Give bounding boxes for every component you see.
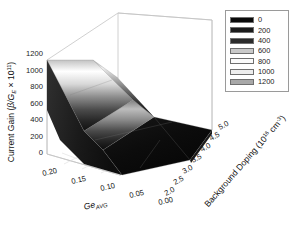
svg-text:Background Doping (1016 cm-3): Background Doping (1016 cm-3) bbox=[202, 113, 287, 209]
legend-swatch-icon bbox=[230, 69, 254, 75]
legend-swatch-icon bbox=[230, 79, 254, 85]
legend-item: 0 bbox=[230, 15, 285, 25]
legend-item: 200 bbox=[230, 25, 285, 35]
x-tick-010: 0.10 bbox=[99, 181, 115, 193]
figure-3d-surface-plot: 1200 1000 800 600 400 200 0 Current Gain… bbox=[0, 0, 300, 242]
z-axis-title: Background Doping (1016 cm-3) bbox=[202, 113, 287, 209]
legend-label: 200 bbox=[258, 27, 270, 34]
legend-swatch-icon bbox=[230, 17, 254, 23]
svg-text:GeAVG: GeAVG bbox=[83, 196, 109, 212]
legend-swatch-icon bbox=[230, 27, 254, 33]
legend-item: 600 bbox=[230, 46, 285, 56]
legend-item: 1000 bbox=[230, 66, 285, 76]
x-axis-title: GeAVG bbox=[83, 196, 109, 212]
y-title-tail: ) bbox=[6, 62, 16, 65]
x-title-sub: AVG bbox=[94, 202, 108, 211]
legend-swatch-icon bbox=[230, 58, 254, 64]
y-tick-1000: 1000 bbox=[26, 66, 43, 75]
z-title-lead: Background Doping (10 bbox=[202, 134, 269, 209]
y-tick-200: 200 bbox=[30, 132, 43, 141]
y-title-times: × 10 bbox=[6, 70, 16, 90]
y-tick-400: 400 bbox=[30, 115, 43, 124]
legend-item: 800 bbox=[230, 56, 285, 66]
x-tick-005: 0.05 bbox=[128, 188, 144, 200]
z-tick-50: 5.0 bbox=[217, 119, 231, 132]
y-tick-600: 600 bbox=[30, 99, 43, 108]
y-title-lead: Current Gain ( bbox=[6, 108, 16, 163]
z-tick-30: 3.0 bbox=[181, 163, 195, 176]
x-axis-ticklabels: 0.20 0.15 0.10 0.05 0.00 bbox=[41, 166, 173, 207]
legend-label: 1200 bbox=[258, 78, 274, 85]
legend-label: 800 bbox=[258, 58, 270, 65]
y-tick-1200: 1200 bbox=[26, 49, 43, 58]
svg-text:Current Gain (β/GE × 1011): Current Gain (β/GE × 1011) bbox=[6, 62, 17, 163]
legend-label: 0 bbox=[258, 16, 262, 23]
x-axis: 0.20 0.15 0.10 0.05 0.00 GeAVG bbox=[41, 166, 173, 213]
legend-item: 400 bbox=[230, 36, 285, 46]
z-tick-25: 2.5 bbox=[172, 174, 186, 187]
x-tick-020: 0.20 bbox=[41, 166, 57, 178]
y-tick-0: 0 bbox=[39, 148, 43, 157]
y-axis-ticklabels: 1200 1000 800 600 400 200 0 bbox=[26, 49, 43, 157]
legend-label: 600 bbox=[258, 47, 270, 54]
legend-swatch-icon bbox=[230, 38, 254, 44]
legend-label: 1000 bbox=[258, 68, 274, 75]
legend-item: 1200 bbox=[230, 77, 285, 87]
colorscale-legend: 0 200 400 600 800 1000 1200 bbox=[225, 10, 289, 92]
y-title-slash: /G bbox=[6, 93, 16, 103]
surface-mesh bbox=[47, 60, 212, 175]
legend-label: 400 bbox=[258, 37, 270, 44]
y-tick-800: 800 bbox=[30, 82, 43, 91]
legend-swatch-icon bbox=[230, 48, 254, 54]
y-axis-title: Current Gain (β/GE × 1011) bbox=[6, 62, 17, 163]
x-tick-015: 0.15 bbox=[70, 174, 86, 186]
y-axis: 1200 1000 800 600 400 200 0 Current Gain… bbox=[6, 49, 43, 162]
